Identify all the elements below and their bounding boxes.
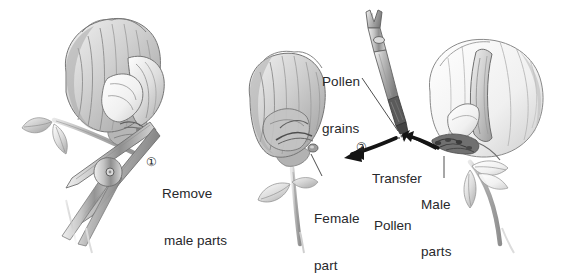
male-parts-anthers <box>432 134 500 160</box>
pollen-grains-label: Pollen grains <box>322 43 360 167</box>
female-part-line-1: Female <box>314 211 360 227</box>
male-parts-line-1: Male <box>421 197 452 213</box>
step-1-number: ① <box>146 155 157 171</box>
leader-line-pollen-grains <box>362 78 398 131</box>
step-1-text: Remove male parts <box>162 155 227 277</box>
male-parts-line-2: parts <box>421 244 452 260</box>
step-1-line-2: male parts <box>162 233 227 249</box>
step-2-line-2: Pollen <box>372 218 422 234</box>
step-1-label: ① Remove male parts <box>146 155 227 277</box>
step-2-line-1: Transfer <box>372 171 422 187</box>
female-part-label: Female part <box>314 180 360 277</box>
step-2-text: Transfer Pollen <box>372 140 422 264</box>
step-2-label: ② Transfer Pollen <box>356 140 422 264</box>
pollen-grains-line-1: Pollen <box>322 74 360 90</box>
forceps-tool <box>362 10 408 140</box>
pollen-grains-line-2: grains <box>322 121 360 137</box>
left-flower-group <box>22 18 164 250</box>
male-parts-label: Male parts <box>421 166 452 277</box>
step-1-line-1: Remove <box>162 186 227 202</box>
leader-line-female-part <box>311 154 322 176</box>
female-part-line-2: part <box>314 258 360 274</box>
